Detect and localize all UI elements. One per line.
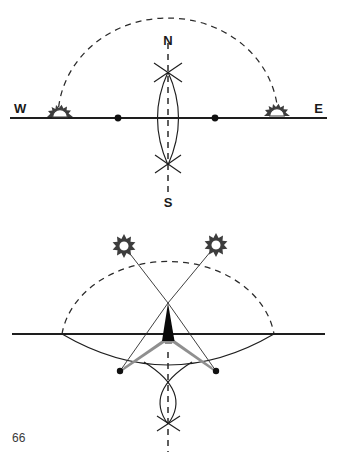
figure-page: W E N S: [0, 0, 337, 460]
sunset-sun-west-icon: [47, 105, 73, 117]
shadow-line-right: [168, 303, 216, 371]
bottom-diagram: [12, 233, 325, 452]
shadow-line-left: [120, 303, 168, 371]
label-south: S: [164, 195, 173, 210]
west-shadow-tip-dot: [115, 115, 122, 122]
east-shadow-tip-dot: [212, 115, 219, 122]
page-number: 66: [12, 431, 26, 445]
bisector-arc-left: [144, 362, 176, 424]
sun-afternoon-right-icon: [205, 233, 228, 257]
sunrise-sun-east-icon: [264, 104, 290, 116]
bisector-arc-right: [160, 362, 192, 424]
label-west: W: [14, 101, 27, 116]
ray-line-right: [168, 245, 216, 303]
shadow-arm-right: [170, 337, 215, 372]
shadow-tip-dot-left: [117, 368, 123, 374]
label-north: N: [163, 33, 172, 48]
sun-morning-left-icon: [113, 234, 136, 258]
figure-canvas: W E N S: [0, 0, 337, 460]
shadow-tip-dot-right: [213, 368, 219, 374]
shadow-arm-left: [121, 337, 167, 372]
top-diagram: W E N S: [10, 18, 327, 210]
label-east: E: [314, 101, 323, 116]
